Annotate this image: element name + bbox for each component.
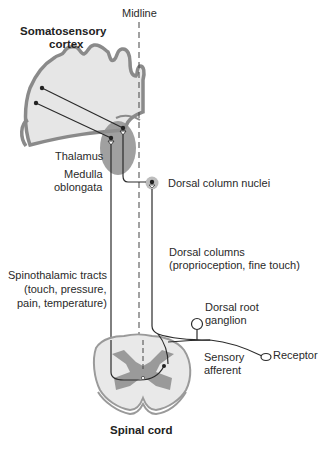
label-sensory-afferent-line1: Sensory bbox=[204, 351, 244, 364]
label-midline: Midline bbox=[122, 7, 157, 20]
label-medulla-line1: Medulla bbox=[64, 168, 103, 181]
spinal-cord-section bbox=[94, 335, 190, 415]
label-dorsal-column-nuclei: Dorsal column nuclei bbox=[168, 177, 270, 190]
label-dorsal-columns-line2: (proprioception, fine touch) bbox=[169, 259, 300, 272]
label-spinothalamic-line1: Spinothalamic tracts bbox=[8, 269, 107, 282]
receptor-node bbox=[261, 354, 271, 361]
label-sensory-afferent-line2: afferent bbox=[204, 364, 241, 377]
dorsal-root-ganglion-node bbox=[192, 319, 203, 330]
pathway-diagram bbox=[0, 0, 331, 450]
label-medulla-line2: oblongata bbox=[54, 181, 102, 194]
label-cortex-line2: cortex bbox=[49, 38, 84, 51]
label-drg-line2: ganglion bbox=[205, 314, 247, 327]
thalamus-shape bbox=[100, 121, 136, 175]
label-spinal-cord: Spinal cord bbox=[110, 424, 173, 437]
label-cortex-line1: Somatosensory bbox=[20, 25, 106, 38]
label-thalamus: Thalamus bbox=[55, 150, 103, 163]
label-spinothalamic-line2: (touch, pressure, bbox=[24, 283, 107, 296]
dorsal-column-line bbox=[152, 189, 158, 334]
label-receptor: Receptor bbox=[273, 349, 318, 362]
label-spinothalamic-line3: pain, temperature) bbox=[17, 297, 107, 310]
label-dorsal-columns-line1: Dorsal columns bbox=[169, 246, 245, 259]
label-drg-line1: Dorsal root bbox=[205, 301, 259, 314]
